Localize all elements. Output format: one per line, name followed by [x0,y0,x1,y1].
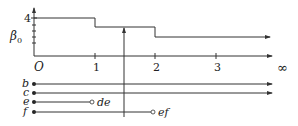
barcode-end-label-ef: ef [158,106,171,119]
persistence-diagram: 4 β0 O 1 2 3 ∞ b c e de f [0,0,298,126]
barcode-end-label-de: de [97,96,111,109]
open-dot-icon [151,110,155,114]
barcode-e: e de [23,95,111,109]
open-dot-icon [90,100,94,104]
infinity-label: ∞ [277,60,288,75]
origin-label: O [34,60,44,74]
y-axis-label: β0 [9,29,22,45]
barcode-b: b [22,77,272,90]
x-tick-label-2: 2 [153,61,160,74]
barcode-c: c [23,86,272,99]
y-axis: 4 β0 [9,8,37,56]
x-tick-label-3: 3 [214,61,221,74]
y-top-tick-label: 4 [24,12,31,25]
x-tick-label-1: 1 [93,61,100,74]
step-function [34,18,270,37]
x-axis: O 1 2 3 ∞ [34,53,288,75]
